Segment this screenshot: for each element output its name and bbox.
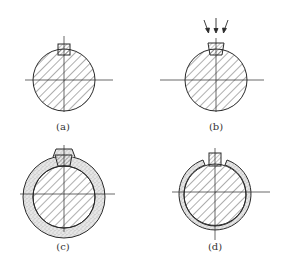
- panel-label-d: (d): [208, 241, 222, 252]
- panel-label-a: (a): [56, 121, 70, 132]
- diagram-canvas: (a) (b) (c) (d): [0, 0, 286, 274]
- panel-label-b: (b): [209, 121, 223, 132]
- panel-a: (a): [25, 36, 113, 132]
- panel-b: (b): [160, 18, 264, 132]
- panel-label-c: (c): [56, 241, 70, 252]
- panel-c: (c): [20, 145, 115, 252]
- panel-d: (d): [172, 148, 270, 252]
- force-arrows-icon: [204, 18, 228, 33]
- tapered-key: [55, 155, 72, 166]
